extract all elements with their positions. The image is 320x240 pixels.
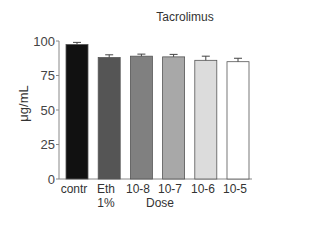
bar-10-8: [130, 56, 152, 179]
x-tick-contr: contr: [57, 182, 91, 196]
x-tick-10-6: 10-6: [186, 182, 220, 196]
x-tick-10-7: 10-7: [153, 182, 187, 196]
x-tick-10-5: 10-5: [218, 182, 252, 196]
x-axis-label: Dose: [140, 196, 180, 210]
bar-10-6: [195, 60, 217, 179]
bar-10-7: [163, 57, 185, 179]
x-tick-eth: Eth 1%: [89, 182, 123, 210]
bar-eth-1-: [98, 58, 120, 179]
bar-contr: [66, 44, 88, 179]
x-tick-10-8: 10-8: [121, 182, 155, 196]
bar-10-5: [227, 62, 249, 179]
